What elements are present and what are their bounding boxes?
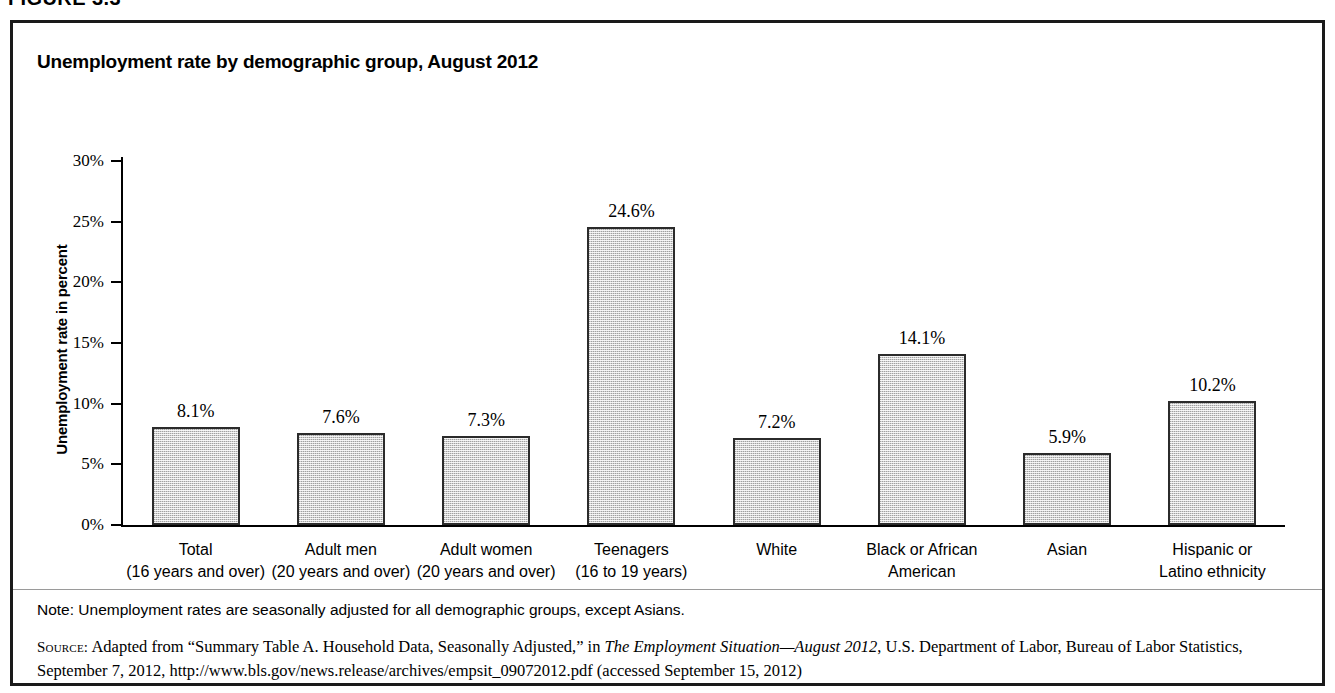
category-label-line1: Teenagers [594,541,669,558]
x-axis-line [121,525,1285,527]
category-label-line1: Asian [1047,541,1087,558]
category-label-line2: (16 to 19 years) [546,561,716,583]
y-axis-tick [111,463,122,465]
category-label-line2: Latino ethnicity [1127,561,1297,583]
category-label-line2: American [837,561,1007,583]
figure-frame: Unemployment rate by demographic group, … [10,20,1325,686]
divider-above-note [13,589,1322,590]
figure-number-label: FIGURE 3.3 [8,0,121,10]
y-axis-tick-label: 5% [44,454,104,474]
category-label-line1: Black or African [866,541,977,558]
category-label-line1: Hispanic or [1172,541,1252,558]
y-axis-tick [111,221,122,223]
chart-source: Source: Adapted from “Summary Table A. H… [37,635,1307,682]
y-axis-tick-label: 10% [44,394,104,414]
bar-value-label: 10.2% [1152,375,1272,396]
bar-value-label: 7.6% [281,407,401,428]
bar-value-label: 8.1% [136,401,256,422]
bar-value-label: 14.1% [862,328,982,349]
bar-value-label: 7.3% [426,410,546,431]
y-axis-tick-label: 25% [44,212,104,232]
category-label-line1: White [756,541,797,558]
bar-value-label: 24.6% [571,201,691,222]
y-axis-tick-label: 0% [44,515,104,535]
y-axis-tick [111,403,122,405]
x-axis-category-label: Hispanic orLatino ethnicity [1127,539,1297,583]
category-label-line1: Total [179,541,213,558]
y-axis-tick-label: 15% [44,333,104,353]
bar [733,438,821,525]
y-axis-tick [111,342,122,344]
bar [297,433,385,525]
y-axis-tick [111,524,122,526]
source-text-part1: Adapted from “Summary Table A. Household… [88,637,604,656]
bar [152,427,240,525]
category-label-line1: Adult women [440,541,533,558]
source-prefix-label: Source: [37,639,88,655]
bar-value-label: 7.2% [717,412,837,433]
y-axis-tick-label: 30% [44,151,104,171]
chart-note: Note: Unemployment rates are seasonally … [37,601,685,619]
bar [1023,453,1111,525]
y-axis-tick [111,281,122,283]
bar [1168,401,1256,525]
bar [878,354,966,525]
y-axis-tick-label: 20% [44,272,104,292]
y-axis-tick [111,160,122,162]
bar-value-label: 5.9% [1007,427,1127,448]
source-publication-title: The Employment Situation—August 2012 [605,637,878,656]
bar [587,227,675,525]
bar [442,436,530,525]
chart-plot-area: Unemployment rate in percent 0%5%10%15%2… [13,23,1328,598]
category-label-line1: Adult men [305,541,377,558]
